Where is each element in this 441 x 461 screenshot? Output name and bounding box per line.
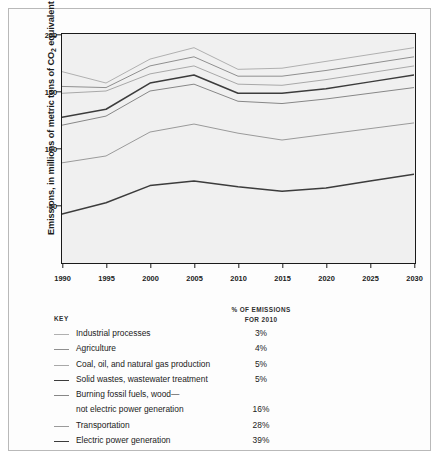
x-tick-label: 2005 xyxy=(186,274,202,283)
series-line xyxy=(62,174,414,214)
x-tick-mark xyxy=(238,264,239,268)
percent-column-heading: % OF EMISSIONS FOR 2010 xyxy=(216,305,306,324)
legend-label: Industrial processes xyxy=(76,328,150,338)
legend-row[interactable]: Industrial processes3% xyxy=(54,327,394,342)
percent-heading-line1: % OF EMISSIONS xyxy=(216,305,306,315)
legend-label: Coal, oil, and natural gas production xyxy=(76,359,210,369)
legend-line-swatch xyxy=(54,334,69,335)
legend-row-list: Industrial processes3%Agriculture4%Coal,… xyxy=(54,327,394,449)
x-tick-mark xyxy=(62,264,63,268)
y-tick-mark xyxy=(56,34,61,35)
legend-percent: 3% xyxy=(216,328,306,338)
chart-area: Emissions, in millions of metric tons of… xyxy=(9,9,432,287)
legend-percent: 5% xyxy=(216,359,306,369)
x-tick-label: 2010 xyxy=(230,274,246,283)
percent-heading-line2: FOR 2010 xyxy=(216,315,306,325)
legend-row[interactable]: Transportation28% xyxy=(54,419,394,434)
legend-line-swatch xyxy=(54,395,69,396)
x-tick-label: 2000 xyxy=(142,274,158,283)
legend-percent: 4% xyxy=(216,343,306,353)
y-axis-label-subscript: 2 xyxy=(50,48,57,52)
x-tick-label: 1990 xyxy=(54,274,70,283)
legend-line-swatch xyxy=(54,380,69,381)
series-line xyxy=(62,123,414,163)
legend-line-swatch xyxy=(54,426,69,427)
series-lines xyxy=(62,34,414,262)
x-tick-label: 2025 xyxy=(362,274,378,283)
legend-row[interactable]: Burning fossil fuels, wood— xyxy=(54,388,394,403)
legend-label-line2: not electric power generation xyxy=(76,404,184,414)
legend-percent: 5% xyxy=(216,374,306,384)
x-tick-label: 2015 xyxy=(274,274,290,283)
y-tick-mark xyxy=(56,91,61,92)
legend-line-swatch xyxy=(54,349,69,350)
legend-row[interactable]: Solid wastes, wastewater treatment5% xyxy=(54,373,394,388)
legend-row[interactable]: Electric power generation39% xyxy=(54,434,394,449)
x-tick-label: 1995 xyxy=(98,274,114,283)
figure-panel: Emissions, in millions of metric tons of… xyxy=(8,8,431,451)
legend-label: Agriculture xyxy=(76,343,116,353)
y-tick-mark xyxy=(56,205,61,206)
x-tick-mark xyxy=(106,264,107,268)
legend-label: Burning fossil fuels, wood— xyxy=(76,389,179,399)
legend-line-swatch xyxy=(54,365,69,366)
x-tick-mark xyxy=(326,264,327,268)
x-tick-label: 2020 xyxy=(318,274,334,283)
key-heading: KEY xyxy=(54,315,69,322)
legend-line-swatch xyxy=(54,441,69,442)
x-tick-mark xyxy=(370,264,371,268)
x-tick-label: 2030 xyxy=(406,274,422,283)
legend-key: KEY % OF EMISSIONS FOR 2010 Industrial p… xyxy=(9,297,432,452)
x-tick-mark xyxy=(150,264,151,268)
legend-row[interactable]: Coal, oil, and natural gas production5% xyxy=(54,358,394,373)
legend-label: Electric power generation xyxy=(76,435,171,445)
series-line xyxy=(62,66,414,93)
x-tick-mark xyxy=(414,264,415,268)
legend-row[interactable]: Agriculture4% xyxy=(54,342,394,357)
legend-percent: 28% xyxy=(216,420,306,430)
x-tick-mark xyxy=(282,264,283,268)
plot-area xyxy=(61,33,416,264)
y-axis-label-suffix: equivalent xyxy=(46,1,56,48)
legend-label: Transportation xyxy=(76,420,130,430)
y-tick-mark xyxy=(56,148,61,149)
legend-percent: 39% xyxy=(216,435,306,445)
legend-percent: 16% xyxy=(216,404,306,414)
legend-row-continuation: not electric power generation16% xyxy=(54,403,394,418)
x-tick-mark xyxy=(194,264,195,268)
legend-label: Solid wastes, wastewater treatment xyxy=(76,374,208,384)
